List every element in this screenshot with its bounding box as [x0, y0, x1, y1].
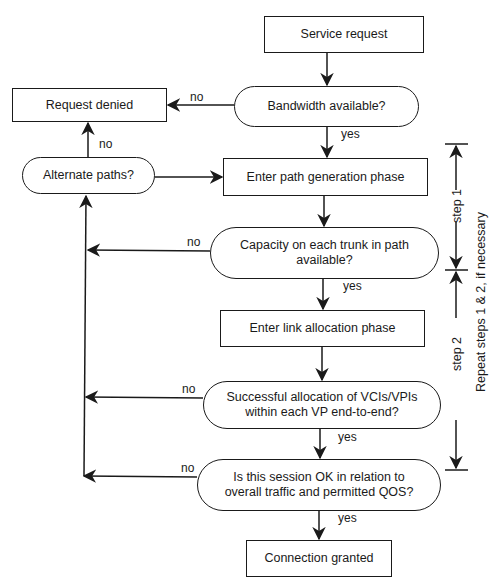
- node-path-generation: Enter path generation phase: [223, 158, 428, 196]
- node-bandwidth-available: Bandwidth available?: [234, 86, 419, 127]
- node-alternate-paths: Alternate paths?: [22, 157, 155, 194]
- edge-label-allocation-no: no: [182, 383, 195, 396]
- edge-label-capacity-no: no: [187, 236, 200, 249]
- edge-label-capacity-yes: yes: [343, 280, 362, 293]
- edge-label-session-no: no: [181, 462, 194, 475]
- node-label: Alternate paths?: [43, 168, 134, 183]
- node-label: Successful allocation of VCIs/VPIs withi…: [218, 390, 426, 420]
- node-label: Is this session OK in relation to overal…: [220, 470, 418, 500]
- node-allocation-check: Successful allocation of VCIs/VPIs withi…: [203, 381, 441, 429]
- node-label: Service request: [301, 27, 388, 42]
- node-session-check: Is this session OK in relation to overal…: [197, 459, 441, 511]
- edge-label-bandwidth-no: no: [190, 91, 203, 104]
- node-capacity-check: Capacity on each trunk in path available…: [210, 227, 439, 279]
- node-label: Connection granted: [264, 551, 373, 566]
- arrow-allocation-no: [86, 397, 203, 398]
- arrow-session-no: [84, 476, 197, 477]
- node-label: Enter path generation phase: [247, 170, 405, 185]
- return-spine: [84, 196, 86, 476]
- node-label: Capacity on each trunk in path available…: [211, 238, 438, 268]
- annotation-step2: step 2: [450, 337, 464, 371]
- node-service-request: Service request: [264, 16, 424, 53]
- edge-label-allocation-yes: yes: [338, 431, 357, 444]
- annotation-repeat: Repeat steps 1 & 2, if necessary: [474, 212, 488, 392]
- node-label: Enter link allocation phase: [250, 321, 396, 336]
- annotation-step1: step 1: [450, 189, 464, 223]
- edge-label-session-yes: yes: [338, 512, 357, 525]
- node-connection-granted: Connection granted: [246, 540, 392, 577]
- edge-label-bandwidth-yes: yes: [341, 128, 360, 141]
- node-label: Bandwidth available?: [267, 99, 385, 114]
- edge-label-alternate-no: no: [99, 138, 112, 151]
- arrow-capacity-no: [88, 250, 210, 251]
- node-label: Request denied: [46, 98, 134, 113]
- node-link-allocation: Enter link allocation phase: [220, 310, 425, 347]
- node-request-denied: Request denied: [12, 88, 167, 122]
